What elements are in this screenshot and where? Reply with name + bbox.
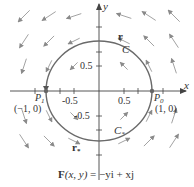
vector-r-label: r bbox=[118, 31, 123, 42]
point-p1-coords: (−1, 0) bbox=[14, 104, 41, 114]
field-arrow bbox=[120, 112, 127, 119]
field-arrow bbox=[20, 34, 29, 47]
field-arrow bbox=[18, 10, 29, 21]
x-tick-pos-half: 0.5 bbox=[118, 96, 131, 106]
vector-field-plot bbox=[0, 0, 194, 187]
vector-field-figure: x y -0.5 0.5 0.5 -0.5 r C C* r* P0 (1, 0… bbox=[0, 0, 194, 187]
field-arrow bbox=[118, 138, 129, 144]
field-arrow bbox=[144, 36, 154, 46]
field-arrow bbox=[144, 136, 154, 146]
field-arrow bbox=[44, 136, 54, 146]
field-arrow bbox=[142, 12, 155, 21]
vector-r-star-label: r* bbox=[72, 142, 80, 155]
field-arrow bbox=[44, 36, 54, 46]
y-tick-neg-half: -0.5 bbox=[74, 111, 90, 121]
field-arrow bbox=[170, 134, 179, 147]
point-p0-coords: (1, 0) bbox=[155, 104, 177, 114]
curve-c-star-label: C* bbox=[114, 125, 125, 138]
field-arrow bbox=[67, 14, 82, 19]
field-arrow bbox=[117, 14, 132, 19]
field-arrow bbox=[168, 10, 179, 21]
y-axis-label: y bbox=[103, 1, 108, 12]
field-caption: F(x, y) = −yi + xj bbox=[58, 169, 134, 180]
field-arrow bbox=[20, 134, 29, 147]
field-arrow bbox=[42, 12, 55, 21]
field-arrow bbox=[68, 38, 79, 44]
field-arrow bbox=[172, 59, 177, 74]
x-axis-label: x bbox=[184, 80, 189, 91]
field-arrow bbox=[70, 62, 77, 69]
curve-c-label: C bbox=[122, 44, 129, 55]
field-arrow bbox=[170, 34, 179, 47]
field-arrow bbox=[22, 59, 27, 74]
x-tick-neg-half: -0.5 bbox=[62, 96, 78, 106]
field-arrow bbox=[120, 62, 127, 69]
y-tick-pos-half: 0.5 bbox=[80, 61, 93, 71]
